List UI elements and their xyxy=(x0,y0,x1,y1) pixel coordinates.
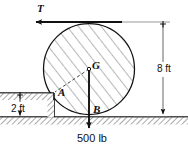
figure-canvas xyxy=(0,0,188,153)
step-block xyxy=(0,93,54,118)
height-dimension-label: 8 ft xyxy=(157,64,171,74)
point-a-label: A xyxy=(58,87,65,98)
ground-surface xyxy=(0,117,188,125)
point-b-label: B xyxy=(93,104,100,115)
step-dimension-label: 2 ft xyxy=(11,104,25,114)
engineering-figure: T G A B 8 ft 2 ft 500 lb xyxy=(0,0,188,153)
load-label: 500 lb xyxy=(77,133,107,144)
tension-label: T xyxy=(37,3,44,14)
center-of-gravity-label: G xyxy=(92,60,100,71)
center-point-marker xyxy=(87,67,90,70)
